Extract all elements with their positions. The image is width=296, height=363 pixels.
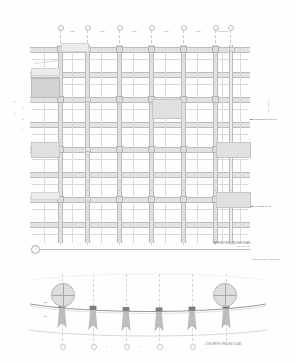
grid-bubble-label: 3: [120, 27, 121, 29]
grid-bubble-label: 6: [216, 27, 217, 29]
row-label-e: E: [22, 118, 24, 120]
callout-tick-icon: [250, 119, 253, 120]
column-cap-small: [85, 147, 91, 153]
column-line-5: [181, 45, 186, 243]
grid-bubble-1[interactable]: 1: [58, 25, 64, 31]
callout-label: EXPOSED SLAB: [254, 205, 271, 207]
longitudinal-section: RL FL 1 2 3 4 CONCRETE GROUND SLAB LONGI…: [0, 258, 296, 363]
grid-bubble-2[interactable]: 2: [85, 25, 91, 31]
section-column-6: [221, 309, 230, 329]
section-grid-bubble-5[interactable]: [190, 344, 196, 350]
row-label-d: D: [14, 112, 16, 114]
plan-title-block: REFLECTED CEILING PLAN SCALE 1:50: [150, 242, 250, 248]
span-label-2: 7200: [100, 30, 105, 32]
section-grid-bubble-2[interactable]: [91, 344, 97, 350]
shaded-panel-a: [61, 43, 89, 52]
section-detail-marker[interactable]: 1: [31, 245, 40, 254]
span-label-1: 7200: [70, 30, 75, 32]
section-span-2: 2: [106, 345, 107, 347]
column-cap: [148, 196, 155, 203]
column-cap: [116, 96, 123, 103]
grid-bubble-4[interactable]: 4: [149, 25, 155, 31]
shaded-panel-f: [216, 192, 251, 208]
section-column-3: [121, 311, 130, 331]
grid-bubble-label: 2: [88, 27, 89, 29]
shaded-panel-e: [216, 142, 251, 158]
column-line-4: [149, 45, 154, 243]
top-note: ALUMINIUM: [216, 30, 228, 32]
shaded-panel-d: [31, 142, 60, 158]
vertical-grid-stamp: GRID LINE: [268, 100, 270, 113]
section-marker-label: 1: [35, 248, 36, 251]
mullion-5: [197, 47, 198, 243]
grid-bubble-label: 5: [184, 27, 185, 29]
column-cap: [148, 46, 155, 53]
detail-bubble-right[interactable]: [213, 283, 237, 307]
section-column-4: [154, 311, 163, 331]
span-label-5: 7200: [196, 30, 201, 32]
column-cap: [180, 196, 187, 203]
mullion-1: [72, 47, 73, 243]
row-label-g: ·: [14, 148, 15, 150]
section-column-2: [88, 310, 97, 330]
crosshair-vertical-icon: [225, 284, 226, 306]
callout-suspended-ceiling[interactable]: SUSPENDED CEILING: [250, 118, 277, 120]
column-cap: [116, 196, 123, 203]
callout-label: SUSPENDED CEILING: [254, 118, 277, 120]
section-column-cap-2: [90, 306, 97, 310]
section-span-4: 4: [172, 345, 173, 347]
shaded-panel-a2: [31, 68, 60, 76]
span-label-3: 7200: [132, 30, 137, 32]
mullion-4: [165, 47, 166, 243]
row-label-a: A: [22, 95, 24, 97]
mullion-3: [133, 47, 134, 243]
section-column-cap-5: [189, 307, 196, 311]
grid-bubble-3[interactable]: 3: [117, 25, 123, 31]
callout-tick-icon: [250, 206, 253, 207]
section-title: LONGITUDINAL SECTION: [190, 258, 280, 261]
section-columns: [0, 258, 296, 363]
section-grid-bubble-4[interactable]: [157, 344, 163, 350]
column-cap: [212, 96, 219, 103]
row-label-b: B: [14, 100, 16, 102]
section-span-3: 3: [139, 345, 140, 347]
row-label-c: C: [22, 106, 24, 108]
column-cap: [180, 46, 187, 53]
shaded-panel-c: [152, 99, 182, 119]
plan-scale: SCALE 1:50: [150, 245, 250, 248]
section-grid-bubble-3[interactable]: [124, 344, 130, 350]
detail-bubble-left[interactable]: [51, 283, 75, 307]
column-cap-small: [85, 97, 91, 103]
column-cap: [148, 146, 155, 153]
section-base-note: CONCRETE GROUND SLAB: [205, 344, 241, 347]
row-label-f: F: [22, 128, 23, 130]
grid-bubble-7[interactable]: 7: [228, 25, 234, 31]
mullion-2: [101, 47, 102, 243]
section-span-1: 1: [73, 345, 74, 347]
callout-exposed-slab[interactable]: EXPOSED SLAB: [250, 205, 271, 207]
grid-bubble-label: 1: [61, 27, 62, 29]
grid-bubble-label: 4: [152, 27, 153, 29]
grid-bubble-5[interactable]: 5: [181, 25, 187, 31]
grid-bubble-label: 7: [231, 27, 232, 29]
column-line-3: [117, 45, 122, 243]
column-line-2: [85, 45, 90, 243]
row-label-h: ·: [22, 158, 23, 160]
span-label-4: 7200: [164, 30, 169, 32]
reflected-ceiling-plan: 1 2 3 4 5 6 7 7200 7200 7200 7200 7200 A…: [0, 0, 296, 255]
column-cap-small: [85, 197, 91, 203]
column-cap: [180, 146, 187, 153]
crosshair-vertical-icon: [63, 284, 64, 306]
column-cap: [116, 46, 123, 53]
section-column-1: [57, 308, 66, 328]
column-cap: [212, 46, 219, 53]
section-column-cap-3: [123, 307, 130, 311]
column-cap-small: [229, 47, 235, 53]
level-label-fl: FL: [44, 316, 47, 318]
section-column-5: [187, 311, 196, 331]
drawing-sheet: 1 2 3 4 5 6 7 7200 7200 7200 7200 7200 A…: [0, 0, 296, 363]
section-column-cap-4: [156, 307, 163, 311]
column-cap: [116, 146, 123, 153]
section-grid-bubble-1[interactable]: [60, 344, 66, 350]
shaded-panel-g: [31, 192, 60, 200]
